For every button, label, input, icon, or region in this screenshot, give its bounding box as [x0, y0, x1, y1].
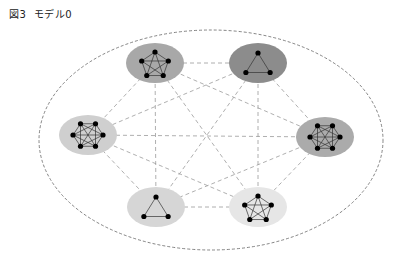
node [93, 121, 98, 126]
node [78, 144, 83, 149]
network-diagram [0, 0, 404, 267]
cluster-bubble [229, 187, 287, 227]
node [255, 50, 260, 55]
node [70, 132, 75, 137]
node [161, 73, 166, 78]
cluster-bubble [229, 43, 287, 83]
node [315, 123, 320, 128]
node [269, 202, 274, 207]
node [337, 134, 342, 139]
inter-cluster-link [88, 135, 325, 137]
node [255, 193, 260, 198]
node [166, 58, 171, 63]
node [139, 58, 144, 63]
node [242, 202, 247, 207]
cluster-right [296, 117, 354, 157]
node [152, 49, 157, 54]
node [144, 73, 149, 78]
node [93, 144, 98, 149]
cluster-left [59, 115, 117, 155]
cluster-bottom-left [127, 187, 185, 227]
node [141, 214, 146, 219]
cluster-bubble [127, 187, 185, 227]
node [247, 217, 252, 222]
node [264, 217, 269, 222]
cluster-bubble [126, 43, 184, 83]
node [268, 70, 273, 75]
node [153, 194, 158, 199]
cluster-top-left [126, 43, 184, 83]
node [166, 214, 171, 219]
inter-cluster-link [155, 63, 156, 207]
node [243, 70, 248, 75]
cluster-bottom-right [229, 187, 287, 227]
node [100, 132, 105, 137]
inter-cluster-links [88, 63, 325, 207]
node [307, 134, 312, 139]
node [315, 146, 320, 151]
cluster-top-right [229, 43, 287, 83]
node [78, 121, 83, 126]
node [330, 146, 335, 151]
node [330, 123, 335, 128]
